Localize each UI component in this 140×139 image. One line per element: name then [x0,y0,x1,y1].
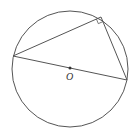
chord-left-top [13,17,101,56]
circle-diagram: O [0,0,140,139]
center-label: O [66,71,73,82]
center-point [69,67,72,70]
chord-top-right [101,17,127,80]
